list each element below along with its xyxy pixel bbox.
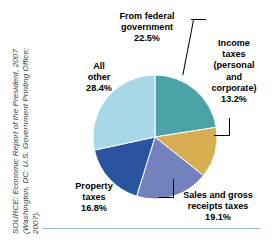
source-credit-line-1: SOURCE: Economic Report of the President… (11, 49, 22, 234)
slice-label-income-line4: and (226, 72, 242, 82)
slice-label-federal-line1: From federal (119, 11, 174, 21)
slice-value-all-other: 28.4% (64, 83, 134, 94)
slice-label-income-line1: Income (218, 38, 250, 48)
slice-label-income-line3: (personal (214, 60, 255, 70)
source-credit: SOURCE: Economic Report of the President… (0, 0, 36, 240)
slice-value-sales-receipts-taxes: 19.1% (168, 212, 268, 223)
slice-value-property-taxes: 16.8% (58, 203, 130, 214)
slice-label-allother-line1: All (93, 61, 105, 71)
pie-chart-figure: SOURCE: Economic Report of the President… (0, 0, 272, 240)
source-credit-line-2: (Washington, DC: U.S. Government Printin… (21, 48, 32, 234)
slice-label-federal-line2: government (121, 22, 173, 32)
slice-value-federal-government: 22.5% (104, 33, 190, 44)
slice-label-income-taxes: Income taxes (personal and corporate) 13… (198, 38, 270, 105)
slice-label-sales-line1: Sales and gross (183, 190, 253, 200)
bottom-divider-rule (42, 228, 260, 229)
slice-label-property-line1: Property (75, 181, 112, 191)
slice-label-sales-receipts-taxes: Sales and gross receipts taxes 19.1% (168, 190, 268, 224)
slice-label-property-line2: taxes (82, 192, 105, 202)
slice-label-all-other: All other 28.4% (64, 61, 134, 95)
slice-label-allother-line2: other (88, 72, 111, 82)
slice-label-property-taxes: Property taxes 16.8% (58, 181, 130, 215)
slice-label-income-line2: taxes (222, 49, 245, 59)
source-credit-line-3: 2007). (31, 211, 42, 234)
leader-line-income-vertical (229, 118, 230, 136)
leader-line-income-horizontal (214, 135, 230, 136)
slice-label-income-line5: corporate) (212, 83, 257, 93)
slice-label-federal-government: From federal government 22.5% (104, 11, 190, 45)
slice-label-sales-line2: receipts taxes (188, 201, 249, 211)
slice-value-income-taxes: 13.2% (198, 94, 270, 105)
